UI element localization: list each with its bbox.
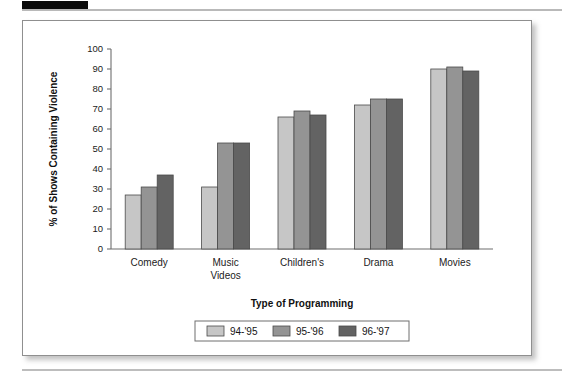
y-tick-label: 50 <box>92 143 103 154</box>
x-tick-label: Videos <box>210 270 240 281</box>
y-tick-label: 40 <box>92 163 103 174</box>
legend-swatch <box>207 326 224 336</box>
bar <box>202 187 218 249</box>
bar <box>141 187 157 249</box>
y-tick-label: 10 <box>92 223 103 234</box>
page-bottom-divider <box>22 369 562 371</box>
bar <box>447 67 463 249</box>
x-tick-label: Movies <box>439 257 471 268</box>
bar <box>278 117 294 249</box>
bar <box>463 71 479 249</box>
plot-area: 0102030405060708090100% of Shows Contain… <box>48 43 493 341</box>
y-tick-label: 60 <box>92 123 103 134</box>
y-tick-label: 30 <box>92 183 103 194</box>
bar <box>431 69 447 249</box>
y-tick-label: 0 <box>98 243 103 254</box>
y-tick-label: 100 <box>87 43 103 54</box>
y-axis-title: % of Shows Containing Violence <box>48 71 59 226</box>
legend-swatch <box>273 326 290 336</box>
bar <box>310 115 326 249</box>
bar <box>354 105 370 249</box>
bar <box>157 175 173 249</box>
bar <box>386 99 402 249</box>
legend-label: 94-'95 <box>230 326 258 337</box>
bar <box>125 195 141 249</box>
legend-swatch <box>339 326 356 336</box>
x-tick-label: Comedy <box>131 257 168 268</box>
y-tick-label: 80 <box>92 83 103 94</box>
bar-chart: 0102030405060708090100% of Shows Contain… <box>23 21 533 357</box>
page-top-divider <box>22 9 562 11</box>
bar <box>234 143 250 249</box>
x-tick-label: Children's <box>280 257 324 268</box>
y-tick-label: 70 <box>92 103 103 114</box>
y-tick-label: 90 <box>92 63 103 74</box>
figure-frame: 0102030405060708090100% of Shows Contain… <box>22 20 532 356</box>
legend-label: 96-'97 <box>362 326 390 337</box>
chart-svg: 0102030405060708090100% of Shows Contain… <box>23 21 533 357</box>
legend-label: 95-'96 <box>296 326 324 337</box>
x-tick-label: Music <box>213 257 239 268</box>
bar <box>370 99 386 249</box>
bar <box>294 111 310 249</box>
bar <box>218 143 234 249</box>
x-axis-title: Type of Programming <box>251 298 354 309</box>
x-tick-label: Drama <box>363 257 393 268</box>
y-tick-label: 20 <box>92 203 103 214</box>
